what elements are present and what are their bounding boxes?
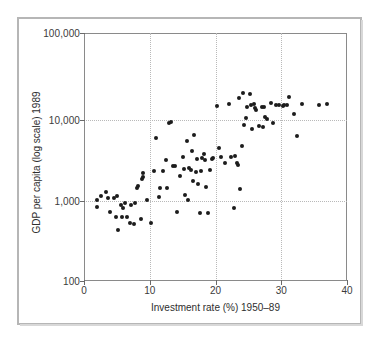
data-point (285, 103, 289, 107)
data-point (206, 211, 210, 215)
data-point (223, 161, 227, 165)
y-tick-label: 1,000 (54, 196, 80, 207)
data-point (219, 155, 223, 159)
data-point (181, 155, 185, 159)
data-point (141, 171, 145, 175)
data-point (198, 211, 202, 215)
data-point (189, 168, 193, 172)
data-point (132, 222, 136, 226)
data-point (141, 175, 145, 179)
data-point (269, 101, 273, 105)
data-point (123, 201, 127, 205)
gridline-x-30 (281, 33, 282, 281)
data-point (202, 152, 206, 156)
data-point (139, 217, 143, 221)
x-tick-label: 40 (341, 285, 352, 296)
data-point (240, 144, 244, 148)
data-point (164, 158, 168, 162)
data-point (252, 102, 256, 106)
data-point (244, 116, 248, 120)
x-tick-label: 30 (276, 285, 287, 296)
gridline-x-20 (216, 33, 217, 281)
y-axis-tick-labels: 100,000 10,000 1,000 100 (26, 33, 80, 281)
data-point (99, 194, 103, 198)
data-point (165, 186, 169, 190)
data-point (108, 210, 112, 214)
x-axis-title: Investment rate (%) 1950–89 (84, 302, 347, 313)
data-point (194, 170, 198, 174)
y-tick-label: 100 (63, 276, 80, 287)
y-tick-label: 10,000 (49, 115, 80, 126)
scatter-plot-area (84, 33, 347, 281)
data-point (241, 91, 245, 95)
data-point (152, 169, 156, 173)
data-point (173, 164, 177, 168)
y-tick-mark (80, 120, 85, 121)
data-point (215, 104, 219, 108)
x-tick-label: 10 (144, 285, 155, 296)
x-tick-label: 20 (210, 285, 221, 296)
data-point (185, 139, 189, 143)
figure-root: GDP per capita (log scale) 1989 100,000 … (0, 0, 371, 338)
data-point (199, 169, 203, 173)
data-point (265, 117, 269, 121)
data-point (248, 92, 252, 96)
data-point (158, 186, 162, 190)
data-point (262, 105, 266, 109)
y-tick-label: 100,000 (43, 28, 80, 39)
y-tick-mark (80, 33, 85, 34)
data-point (236, 163, 240, 167)
data-point (136, 184, 140, 188)
data-point (149, 221, 153, 225)
data-point (114, 215, 118, 219)
data-point (161, 169, 165, 173)
x-tick-label: 0 (81, 285, 87, 296)
gridline-x-10 (150, 33, 151, 281)
y-tick-mark (80, 201, 85, 202)
data-point (227, 102, 231, 106)
data-point (186, 198, 190, 202)
x-axis-tick-labels: 0 10 20 30 40 (84, 285, 347, 299)
data-point (106, 196, 110, 200)
data-point (277, 103, 281, 107)
